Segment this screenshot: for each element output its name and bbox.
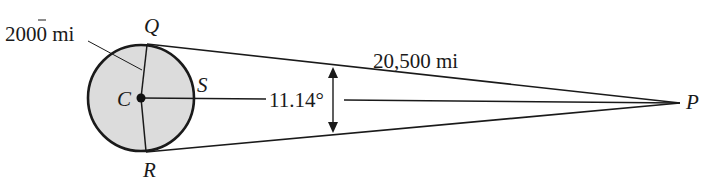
center-point <box>137 94 146 103</box>
point-label-p: P <box>685 90 699 114</box>
point-label-c: C <box>117 87 132 111</box>
diagram-canvas: 2000 mi Q S C R P 20,500 mi 11.14° <box>0 0 710 194</box>
center-line-right <box>344 100 680 103</box>
angle-label: 11.14° <box>269 88 324 112</box>
tangent-line-rp <box>146 103 680 152</box>
arrow-head-up <box>328 67 338 78</box>
radius-label: 2000 mi <box>5 22 75 46</box>
arrow-head-down <box>328 122 338 133</box>
point-label-q: Q <box>144 14 159 38</box>
point-label-r: R <box>142 158 156 182</box>
point-label-s: S <box>197 73 208 97</box>
distance-label: 20,500 mi <box>373 49 458 73</box>
center-line-left <box>141 98 266 99</box>
